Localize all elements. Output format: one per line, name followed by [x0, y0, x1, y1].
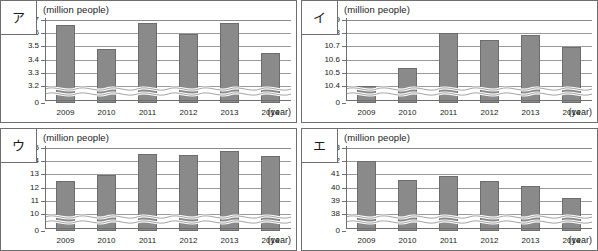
y-axis-tick-label: 10.4: [324, 82, 340, 90]
x-axis-tick-label: 2009: [57, 237, 75, 245]
panel-label-box-i: イ: [302, 1, 338, 35]
y-axis-tick-label: 10: [30, 210, 39, 218]
y-axis-tick: [41, 231, 45, 232]
panel-label-i: イ: [313, 11, 326, 24]
bar: [261, 53, 280, 103]
x-axis-tick-label: 2010: [98, 237, 116, 245]
y-axis-tick-label: 0: [336, 99, 340, 107]
x-axis-tick-label: 2010: [399, 109, 417, 117]
bar: [97, 175, 116, 231]
y-axis-tick-label: 12: [30, 184, 39, 192]
bar: [179, 155, 198, 231]
bar: [562, 198, 581, 231]
x-axis-tick-label: 2011: [440, 237, 457, 245]
bar: [357, 161, 376, 231]
y-axis-line: [45, 18, 46, 101]
panel-label-box-a: ア: [1, 1, 37, 35]
x-axis-tick-label: 2012: [180, 109, 198, 117]
y-axis-tick-label: 39: [331, 197, 340, 205]
gridline: [346, 73, 592, 74]
plot-inner: 4342414039380: [346, 146, 592, 229]
x-axis-tick-label: 2011: [139, 109, 156, 117]
y-axis-line: [45, 146, 46, 229]
bar: [398, 180, 417, 231]
bar: [97, 49, 116, 103]
gridline: [346, 60, 592, 61]
x-axis-tick-label: 2012: [180, 237, 198, 245]
bar: [480, 181, 499, 231]
x-axis-line: [45, 228, 291, 229]
x-axis-tick-label: 2013: [522, 237, 540, 245]
y-axis-tick-label: 0: [35, 99, 39, 107]
x-axis-tick-label: 2012: [481, 109, 499, 117]
bar: [521, 186, 540, 231]
x-axis-unit-label: (year): [568, 108, 592, 117]
y-axis-tick: [41, 103, 45, 104]
bar: [562, 47, 581, 103]
gridline: [346, 86, 592, 87]
bar: [56, 25, 75, 103]
x-axis-labels: 200920102011201220132014(year): [45, 103, 291, 117]
gridline: [346, 201, 592, 202]
y-axis-tick-label: 0: [336, 227, 340, 235]
gridline: [346, 20, 592, 21]
plot-area-i: 10.910.810.710.610.510.40: [346, 18, 592, 101]
x-axis-line: [346, 100, 592, 101]
gridline: [45, 60, 291, 61]
y-axis-tick-label: 13: [30, 170, 39, 178]
chart-panel-e: エ(million people)43424140393802009201020…: [301, 128, 598, 251]
plot-inner: 3.73.63.53.43.33.20: [45, 18, 291, 101]
panel-label-u: ウ: [12, 139, 25, 152]
gridline: [346, 148, 592, 149]
y-axis-unit-label: (million people): [344, 4, 410, 15]
y-axis-tick: [342, 103, 346, 104]
chart-panel-a: ア(million people)3.73.63.53.43.33.202009…: [0, 0, 297, 123]
x-axis-unit-label: (year): [267, 108, 291, 117]
x-axis-unit-label: (year): [267, 236, 291, 245]
gridline: [45, 174, 291, 175]
bar: [179, 34, 198, 103]
y-axis-tick-label: 41: [331, 170, 340, 178]
gridline: [346, 188, 592, 189]
x-axis-line: [346, 228, 592, 229]
y-axis-tick-label: 3.2: [28, 82, 39, 90]
y-axis-tick: [342, 231, 346, 232]
x-axis-tick-label: 2010: [98, 109, 116, 117]
panel-label-box-u: ウ: [1, 129, 37, 163]
y-axis-tick-label: 10.6: [324, 56, 340, 64]
gridline: [346, 161, 592, 162]
bar: [439, 33, 458, 103]
x-axis-labels: 200920102011201220132014(year): [346, 231, 592, 245]
y-axis-unit-label: (million people): [43, 132, 109, 143]
x-axis-tick-label: 2012: [481, 237, 499, 245]
y-axis-tick-label: 38: [331, 210, 340, 218]
gridline: [346, 33, 592, 34]
y-axis-unit-label: (million people): [43, 4, 109, 15]
y-axis-unit-label: (million people): [344, 132, 410, 143]
x-axis-tick-label: 2010: [399, 237, 417, 245]
chart-panel-u: ウ(million people)15141312111002009201020…: [0, 128, 297, 251]
bar: [220, 151, 239, 231]
gridline: [45, 214, 291, 215]
y-axis-line: [346, 18, 347, 101]
plot-area-e: 4342414039380: [346, 146, 592, 229]
x-axis-tick-label: 2011: [440, 109, 457, 117]
y-axis-tick-label: 10.7: [324, 42, 340, 50]
y-axis-tick-label: 10.5: [324, 69, 340, 77]
bar: [56, 181, 75, 231]
gridline: [45, 188, 291, 189]
x-axis-tick-label: 2009: [358, 109, 376, 117]
y-axis-tick-label: 0: [35, 227, 39, 235]
x-axis-tick-label: 2013: [221, 237, 239, 245]
y-axis-tick-label: 3.4: [28, 56, 39, 64]
gridline: [346, 46, 592, 47]
bar: [480, 40, 499, 103]
y-axis-tick-label: 3.3: [28, 69, 39, 77]
bar: [261, 156, 280, 231]
panel-label-e: エ: [313, 139, 326, 152]
y-axis-tick-label: 11: [31, 197, 39, 205]
plot-inner: 10.910.810.710.610.510.40: [346, 18, 592, 101]
x-axis-tick-label: 2011: [139, 237, 156, 245]
plot-inner: 1514131211100: [45, 146, 291, 229]
plot-area-a: 3.73.63.53.43.33.20: [45, 18, 291, 101]
